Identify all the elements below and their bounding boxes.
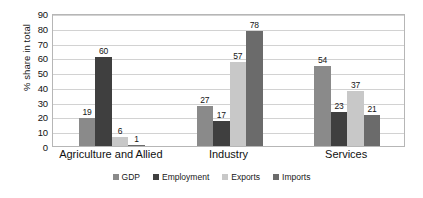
bar-slot: 1 [128,15,145,146]
bar-slot: 37 [347,15,364,146]
bar[interactable] [314,66,331,146]
y-tick-label: 30 [20,97,48,108]
legend-item[interactable]: Exports [222,172,260,182]
y-tick-label: 40 [20,82,48,93]
legend-label: GDP [122,172,140,182]
y-tick-label: 0 [20,142,48,153]
category-label: Services [325,148,367,160]
bar[interactable] [95,57,112,146]
legend-label: Imports [282,172,310,182]
bar-value-label: 23 [334,101,343,111]
bar[interactable] [246,31,263,146]
bar-slot: 78 [246,15,263,146]
legend-item[interactable]: GDP [113,172,140,182]
legend-swatch-icon [222,174,228,180]
bar[interactable] [197,106,214,146]
bar-value-label: 27 [200,95,209,105]
bar[interactable] [230,62,247,146]
legend-swatch-icon [153,174,159,180]
y-tick-label: 60 [20,53,48,64]
bar[interactable] [331,112,348,146]
bar-value-label: 60 [99,46,108,56]
bar[interactable] [364,115,381,146]
plot-area: 1960612717577854233721 [52,14,405,147]
bar-value-label: 6 [118,126,123,136]
legend-item[interactable]: Imports [273,172,310,182]
bar-slot: 6 [112,15,129,146]
bar-slot: 19 [79,15,96,146]
y-axis-ticks: 9080706050403020100 [20,14,48,147]
bar[interactable] [128,145,145,146]
category-label: Agriculture and Allied [59,148,162,160]
y-tick-label: 70 [20,38,48,49]
bar-group: 27175778 [197,15,263,146]
y-tick-label: 90 [20,9,48,20]
bar-value-label: 78 [250,20,259,30]
bar[interactable] [347,91,364,146]
bar-value-label: 19 [83,107,92,117]
bar-group: 54233721 [314,15,380,146]
bar-value-label: 57 [233,51,242,61]
legend-item[interactable]: Employment [153,172,209,182]
y-tick-label: 80 [20,23,48,34]
legend-swatch-icon [273,174,279,180]
legend: GDPEmploymentExportsImports [0,172,423,182]
bar-slot: 54 [314,15,331,146]
bar-slot: 57 [230,15,247,146]
bar-chart: % share in total 9080706050403020100 196… [0,0,423,198]
bar-value-label: 37 [351,80,360,90]
legend-swatch-icon [113,174,119,180]
bar-slot: 23 [331,15,348,146]
x-axis-category-labels: Agriculture and AlliedIndustryServices [52,148,405,164]
legend-label: Exports [231,172,260,182]
bar-value-label: 1 [134,134,139,144]
bar[interactable] [79,118,96,146]
bar-value-label: 17 [217,110,226,120]
legend-label: Employment [162,172,209,182]
bar-slot: 21 [364,15,381,146]
bar-group: 196061 [79,15,145,146]
bar-slot: 60 [95,15,112,146]
bar-slot: 17 [213,15,230,146]
y-tick-label: 10 [20,127,48,138]
bars-layer: 1960612717577854233721 [53,15,404,146]
y-tick-label: 50 [20,68,48,79]
bar-value-label: 21 [367,104,376,114]
category-label: Industry [209,148,248,160]
y-tick-label: 20 [20,112,48,123]
bar-slot: 27 [197,15,214,146]
bar[interactable] [213,121,230,146]
bar-value-label: 54 [318,55,327,65]
bar[interactable] [112,137,129,146]
